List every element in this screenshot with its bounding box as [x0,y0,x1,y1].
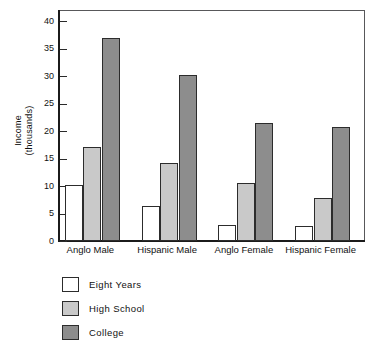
category-label-anglo-male: Anglo Male [52,244,129,255]
legend-item-college: College [62,320,145,344]
y-tick-label: 25 [28,99,54,108]
bar-anglo-female-college [255,123,273,241]
bar-anglo-female-high-school [237,183,255,241]
bar-hispanic-female-college [332,127,350,241]
chart-legend: Eight YearsHigh SchoolCollege [62,272,145,344]
legend-swatch-icon [62,325,79,340]
y-tick-label: 30 [28,72,54,81]
legend-item-high-school: High School [62,296,145,320]
bar-anglo-male-college [102,38,120,242]
bar-anglo-male-eight-years [65,185,83,241]
y-tick-label: 5 [28,209,54,218]
category-label-hispanic-male: Hispanic Male [129,244,206,255]
y-tick-mark [60,241,67,242]
bar-hispanic-female-high-school [314,198,332,241]
bar-chart-figure: Income (thousands) 0510152025303540 Angl… [0,0,375,346]
y-tick-label: 0 [28,237,54,246]
category-label-anglo-female: Anglo Female [206,244,283,255]
bar-hispanic-male-high-school [160,163,178,241]
legend-swatch-icon [62,301,79,316]
y-tick-label: 35 [28,44,54,53]
legend-label: High School [89,303,145,314]
legend-label: College [89,327,124,338]
legend-label: Eight Years [89,279,141,290]
bar-hispanic-male-eight-years [142,206,160,241]
legend-swatch-icon [62,277,79,292]
y-tick-label: 10 [28,182,54,191]
y-tick-label: 15 [28,154,54,163]
bar-anglo-female-eight-years [218,225,236,241]
bars-layer [58,10,365,241]
bar-hispanic-male-college [179,75,197,241]
bar-hispanic-female-eight-years [295,226,313,241]
category-label-hispanic-female: Hispanic Female [282,244,359,255]
legend-item-eight-years: Eight Years [62,272,145,296]
y-tick-label: 20 [28,127,54,136]
y-tick-label: 40 [28,17,54,26]
bar-anglo-male-high-school [83,147,101,241]
